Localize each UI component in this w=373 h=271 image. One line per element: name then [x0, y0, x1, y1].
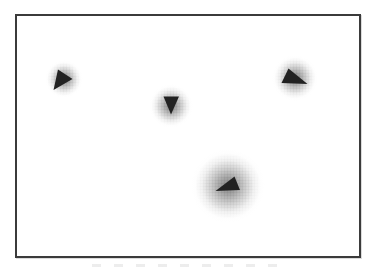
scanned-figure-page	[0, 0, 373, 271]
figure-frame	[15, 14, 361, 258]
